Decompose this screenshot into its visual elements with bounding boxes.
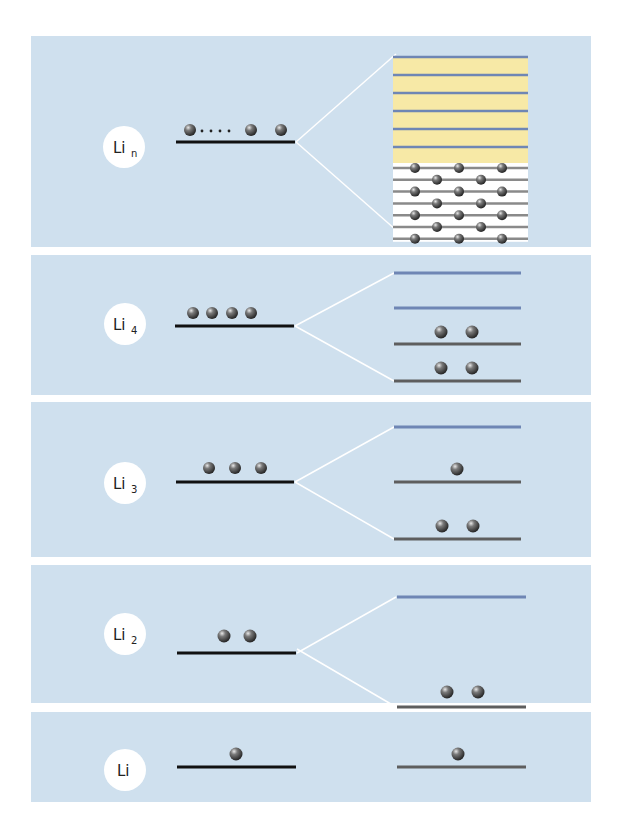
label-main: Li: [117, 762, 130, 780]
electron-sphere: [245, 124, 257, 136]
label-lin: Li n: [103, 126, 145, 168]
electron-sphere: [432, 198, 442, 208]
electron-sphere: [476, 198, 486, 208]
electron-sphere: [245, 307, 257, 319]
electron-sphere: [497, 234, 507, 244]
ellipsis-dot: [201, 130, 204, 133]
electron-sphere: [454, 234, 464, 244]
electron-sphere: [497, 210, 507, 220]
label-li3: Li 3: [104, 462, 146, 504]
electron-sphere: [435, 362, 448, 375]
panel-li4: Li 4: [31, 255, 591, 395]
label-li2: Li 2: [104, 613, 146, 655]
electron-sphere: [432, 175, 442, 185]
electron-sphere: [441, 686, 454, 699]
electron-sphere: [184, 124, 196, 136]
electron-sphere: [454, 210, 464, 220]
electron-sphere: [410, 187, 420, 197]
electron-sphere: [187, 307, 199, 319]
electron-sphere: [244, 630, 257, 643]
ellipsis-dot: [210, 130, 213, 133]
label-li: Li: [104, 749, 146, 791]
electron-sphere: [229, 462, 241, 474]
electron-sphere: [230, 748, 243, 761]
electron-sphere: [206, 307, 218, 319]
electron-sphere: [466, 326, 479, 339]
electron-sphere: [203, 462, 215, 474]
electron-sphere: [454, 187, 464, 197]
panel-li: Li: [31, 712, 591, 802]
panel-lin: Li n: [31, 36, 591, 247]
label-subscript: 2: [131, 635, 137, 646]
electron-sphere: [410, 163, 420, 173]
electron-sphere: [410, 210, 420, 220]
ellipsis-dot: [228, 130, 231, 133]
energy-band: [393, 57, 528, 244]
electron-sphere: [255, 462, 267, 474]
electron-sphere: [432, 222, 442, 232]
label-subscript: n: [131, 148, 137, 159]
label-main: Li: [113, 316, 126, 334]
electron-sphere: [497, 187, 507, 197]
label-main: Li: [113, 475, 126, 493]
lithium-band-formation-diagram: Li n Li 4: [0, 0, 636, 832]
electron-sphere: [410, 234, 420, 244]
electron-sphere: [467, 520, 480, 533]
electron-sphere: [226, 307, 238, 319]
label-main: Li: [113, 139, 126, 157]
electron-sphere: [476, 222, 486, 232]
electron-sphere: [476, 175, 486, 185]
electron-sphere: [466, 362, 479, 375]
electron-sphere: [435, 326, 448, 339]
label-main: Li: [113, 626, 126, 644]
panel-li2: Li 2: [31, 565, 591, 707]
label-li4: Li 4: [104, 303, 146, 345]
electron-sphere: [451, 463, 464, 476]
ellipsis-dot: [219, 130, 222, 133]
electron-sphere: [452, 748, 465, 761]
electron-sphere: [275, 124, 287, 136]
panel-li3: Li 3: [31, 402, 591, 557]
electron-sphere: [218, 630, 231, 643]
electron-sphere: [497, 163, 507, 173]
label-subscript: 3: [131, 484, 137, 495]
electron-sphere: [454, 163, 464, 173]
electron-sphere: [472, 686, 485, 699]
electron-sphere: [436, 520, 449, 533]
label-subscript: 4: [131, 325, 137, 336]
